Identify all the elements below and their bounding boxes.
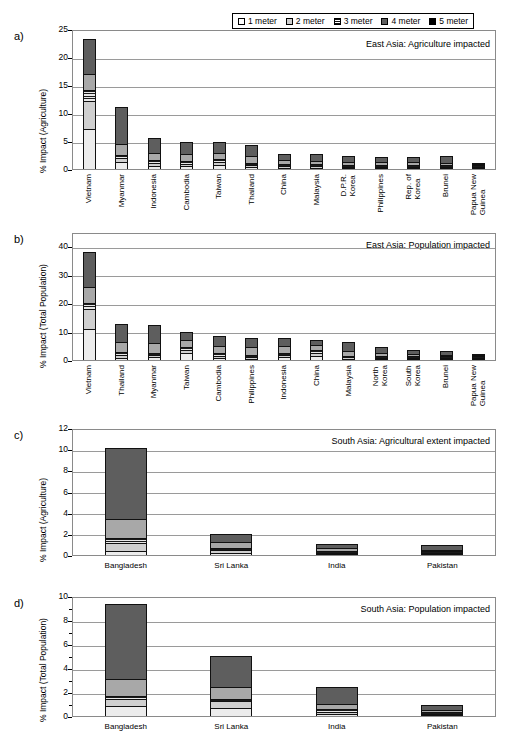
stacked-bar[interactable] <box>115 324 128 360</box>
x-axis-label: Bangladesh <box>73 723 179 732</box>
stacked-bar[interactable] <box>278 338 291 360</box>
stacked-bar[interactable] <box>105 604 147 716</box>
bar-segment-2m <box>105 543 147 551</box>
panel-a-letter: a) <box>14 30 24 42</box>
bar-column <box>300 234 332 360</box>
x-axis-cell: D.P.R.Korea <box>333 172 365 224</box>
stacked-bar[interactable] <box>105 448 147 555</box>
x-axis-label: India <box>284 562 390 571</box>
stacked-bar[interactable] <box>421 545 463 555</box>
stacked-bar[interactable] <box>148 325 161 360</box>
stacked-bar[interactable] <box>213 336 226 360</box>
stacked-bar[interactable] <box>375 157 388 169</box>
stacked-bar[interactable] <box>245 145 258 169</box>
tick-mark <box>68 276 72 277</box>
panel-b-plot: East Asia: Population impacted <box>72 233 496 361</box>
bar-column <box>430 31 462 169</box>
stacked-bar[interactable] <box>310 340 323 360</box>
stacked-bar[interactable] <box>375 347 388 360</box>
bar-column <box>333 234 365 360</box>
x-axis-cell: Myanmar <box>138 363 170 418</box>
x-axis-label: Taiwan <box>182 365 191 390</box>
bar-segment-1m <box>83 129 96 169</box>
x-axis-cell: Brunei <box>430 172 462 224</box>
stacked-bar[interactable] <box>245 338 258 360</box>
bar-segment-1m <box>407 359 420 360</box>
panel-a-ylabel: % Impact (Agriculture) <box>38 89 48 173</box>
bar-segment-2m <box>83 309 96 329</box>
bar-segment-2m <box>83 101 96 130</box>
bar-segment-1m <box>148 166 161 169</box>
bar-segment-1m <box>310 356 323 360</box>
stacked-bar[interactable] <box>210 534 252 555</box>
panel-c-plot: South Asia: Agricultural extent impacted <box>72 429 496 556</box>
stacked-bar[interactable] <box>83 39 96 169</box>
bar-segment-4m <box>278 346 291 353</box>
bar-column <box>268 31 300 169</box>
bar-segment-1m <box>213 358 226 360</box>
bar-segment-4m <box>105 519 147 538</box>
bar-segment-1m <box>278 168 291 169</box>
tick-mark <box>68 535 72 536</box>
x-axis-cell: Malaysia <box>333 363 365 418</box>
stacked-bar[interactable] <box>316 544 358 555</box>
panel-b-letter: b) <box>14 233 24 245</box>
tick-mark <box>68 142 72 143</box>
stacked-bar[interactable] <box>440 156 453 169</box>
stacked-bar[interactable] <box>210 656 252 716</box>
x-axis-label: Cambodia <box>182 174 191 210</box>
stacked-bar[interactable] <box>407 157 420 169</box>
y-axis-tick: 4 <box>46 508 68 518</box>
stacked-bar[interactable] <box>440 351 453 360</box>
bar-column <box>170 234 202 360</box>
bar-segment-5m <box>245 338 258 348</box>
stacked-bar[interactable] <box>407 350 420 360</box>
bar-segment-5m <box>115 324 128 342</box>
stacked-bar[interactable] <box>148 138 161 169</box>
tick-mark <box>68 556 72 557</box>
stacked-bar[interactable] <box>316 687 358 716</box>
bar-segment-5m <box>213 336 226 346</box>
x-axis-cell: Rep. ofKorea <box>398 172 430 224</box>
x-axis-cell: Myanmar <box>105 172 137 224</box>
stacked-bar[interactable] <box>342 342 355 360</box>
bar-column <box>463 234 495 360</box>
panel-a: a) % Impact (Agriculture) East Asia: Agr… <box>0 25 516 225</box>
bar-segment-5m <box>83 252 96 288</box>
stacked-bar[interactable] <box>472 163 485 169</box>
x-axis-cell: India <box>284 720 390 740</box>
stacked-bar[interactable] <box>342 156 355 169</box>
tick-mark <box>68 597 72 598</box>
bar-column <box>390 598 496 716</box>
bar-column <box>73 31 105 169</box>
stacked-bar[interactable] <box>180 142 193 169</box>
x-axis-label: Thailand <box>117 365 126 396</box>
minor-tick-mark <box>69 705 72 706</box>
y-axis-tick: 10 <box>46 444 68 454</box>
tick-mark <box>68 247 72 248</box>
bar-column <box>203 234 235 360</box>
x-axis-cell: Bangladesh <box>73 720 179 740</box>
stacked-bar[interactable] <box>421 705 463 716</box>
bar-segment-5m <box>210 656 252 687</box>
bar-segment-5m <box>342 342 355 351</box>
bar-column <box>398 234 430 360</box>
stacked-bar[interactable] <box>213 142 226 169</box>
stacked-bar[interactable] <box>83 252 96 360</box>
bar-column <box>365 234 397 360</box>
bar-segment-1m <box>210 553 252 555</box>
stacked-bar[interactable] <box>115 107 128 169</box>
y-axis-tick: 5 <box>46 136 68 146</box>
x-axis-label: Brunei <box>442 174 451 197</box>
bar-segment-4m <box>115 144 128 155</box>
stacked-bar[interactable] <box>472 354 485 360</box>
bar-segment-2m <box>210 701 252 708</box>
stacked-bar[interactable] <box>278 154 291 169</box>
bar-segment-4m <box>105 679 147 696</box>
bar-column <box>105 31 137 169</box>
bar-column <box>138 31 170 169</box>
bar-column <box>105 234 137 360</box>
stacked-bar[interactable] <box>180 332 193 360</box>
bar-column <box>203 31 235 169</box>
stacked-bar[interactable] <box>310 154 323 169</box>
